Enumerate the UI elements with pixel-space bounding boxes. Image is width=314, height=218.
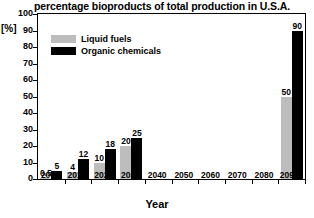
legend-item-liquid-fuels: Liquid fuels xyxy=(51,34,161,44)
y-axis-tick xyxy=(33,64,38,65)
legend-item-organic-chemicals: Organic chemicals xyxy=(51,46,161,56)
bar-value-label: 90 xyxy=(292,22,301,31)
y-axis-tick-label: 90 xyxy=(5,26,33,35)
bar-value-label: 12 xyxy=(79,150,88,159)
legend-swatch-organic-chemicals xyxy=(51,47,76,55)
y-axis-tick-label: 100 xyxy=(5,9,33,18)
x-axis-tick-label: 2090* xyxy=(271,170,311,180)
x-axis-title: Year xyxy=(0,198,314,210)
bar-value-label: 25 xyxy=(132,129,141,138)
y-axis-tick-label: 0 xyxy=(5,174,33,183)
legend-swatch-liquid-fuels xyxy=(51,35,76,43)
y-axis-tick xyxy=(33,14,38,15)
y-axis-tick-label: 20 xyxy=(5,141,33,150)
bar: 50 xyxy=(281,97,292,180)
bar-value-label: 18 xyxy=(106,140,115,149)
bar-value-label: 10 xyxy=(95,154,104,163)
y-axis-tick-label: 30 xyxy=(5,125,33,134)
legend: Liquid fuels Organic chemicals xyxy=(51,34,161,58)
y-axis-tick-label: 10 xyxy=(5,158,33,167)
legend-label-organic-chemicals: Organic chemicals xyxy=(81,47,161,56)
y-axis-tick xyxy=(33,113,38,114)
y-axis-tick xyxy=(33,130,38,131)
y-axis-tick xyxy=(33,47,38,48)
bar: 90 xyxy=(292,31,303,180)
bar-chart: percentage bioproducts of total producti… xyxy=(0,0,314,218)
chart-title: percentage bioproducts of total producti… xyxy=(34,0,312,13)
y-axis-tick-label: 50 xyxy=(5,92,33,101)
bar-value-label: 20 xyxy=(121,137,130,146)
y-axis-tick xyxy=(33,80,38,81)
bar-value-label: 50 xyxy=(281,88,290,97)
y-axis-tick xyxy=(33,146,38,147)
y-axis-tick-label: 80 xyxy=(5,42,33,51)
legend-label-liquid-fuels: Liquid fuels xyxy=(81,35,132,44)
y-axis-tick-label: 40 xyxy=(5,108,33,117)
y-axis-tick-label: 60 xyxy=(5,75,33,84)
y-axis-tick xyxy=(33,31,38,32)
y-axis-tick-label: 70 xyxy=(5,59,33,68)
y-axis-tick xyxy=(33,97,38,98)
y-axis-tick xyxy=(33,163,38,164)
